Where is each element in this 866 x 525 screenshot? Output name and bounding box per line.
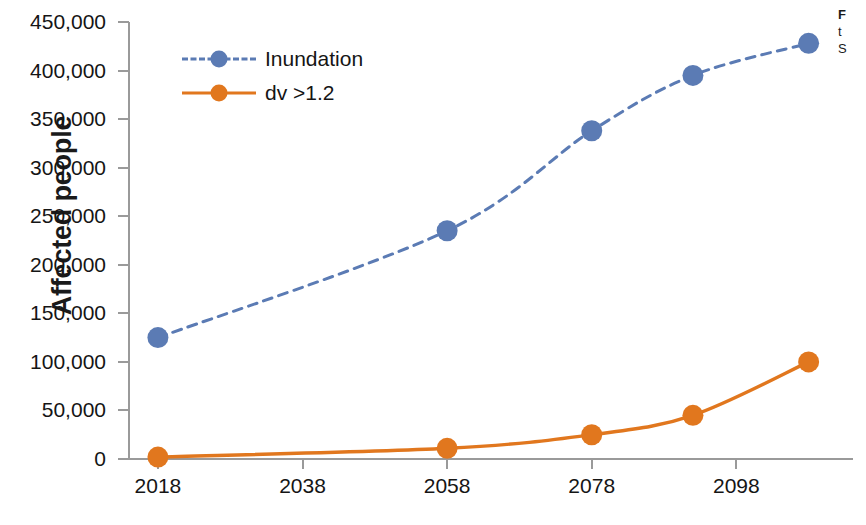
chart-figure: Affected people 050,000100,000150,000200…	[0, 0, 866, 525]
chart-legend: Inundation dv >1.2	[182, 42, 363, 110]
data-point-marker[interactable]	[682, 405, 703, 426]
data-point-marker[interactable]	[798, 33, 819, 54]
data-point-marker[interactable]	[147, 447, 168, 468]
data-point-marker[interactable]	[581, 424, 602, 445]
data-point-marker[interactable]	[147, 327, 168, 348]
data-point-marker[interactable]	[682, 65, 703, 86]
side-caption-line-1: F	[838, 6, 866, 23]
series-line	[158, 362, 809, 457]
data-point-marker[interactable]	[581, 120, 602, 141]
side-caption-line-2: t	[838, 23, 866, 40]
legend-item-dv[interactable]: dv >1.2	[182, 76, 363, 110]
legend-marker-circle-icon	[211, 85, 228, 102]
data-point-marker[interactable]	[798, 351, 819, 372]
legend-label-inundation: Inundation	[265, 47, 363, 71]
data-point-marker[interactable]	[437, 438, 458, 459]
plot-area	[0, 0, 866, 525]
side-caption: F t S	[838, 6, 866, 57]
legend-label-dv: dv >1.2	[265, 81, 334, 105]
legend-item-inundation[interactable]: Inundation	[182, 42, 363, 76]
legend-key-dv	[182, 84, 256, 102]
legend-key-inundation	[182, 50, 256, 68]
data-point-marker[interactable]	[437, 220, 458, 241]
side-caption-line-3: S	[838, 40, 866, 57]
legend-marker-circle-icon	[211, 51, 228, 68]
